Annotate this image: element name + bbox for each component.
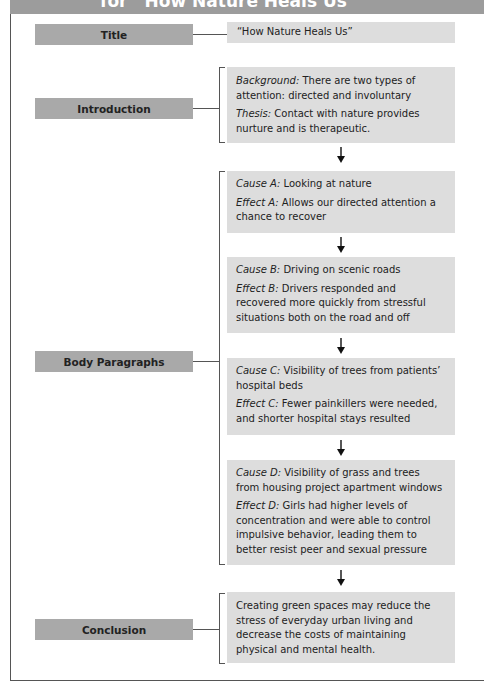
cause-a-text: Looking at nature	[280, 178, 371, 189]
label-body-paragraphs: Body Paragraphs	[35, 351, 193, 372]
cause-c: Cause C: Visibility of trees from patien…	[236, 364, 445, 393]
effect-c: Effect C: Fewer painkillers were needed,…	[236, 397, 445, 426]
box-introduction: Background: There are two types of atten…	[227, 67, 455, 143]
background-label: Background:	[236, 75, 299, 86]
box-cause-effect-a: Cause A: Looking at nature Effect A: All…	[227, 171, 455, 233]
bracket-conclusion	[219, 593, 225, 664]
effect-b-label: Effect B:	[236, 283, 279, 294]
down-arrow-icon	[336, 570, 346, 586]
label-conclusion: Conclusion	[35, 619, 193, 640]
effect-d-label: Effect D:	[236, 500, 279, 511]
title-text: “How Nature Heals Us”	[237, 25, 353, 40]
cause-c-label: Cause C:	[236, 365, 280, 376]
down-arrow-icon	[336, 237, 346, 253]
effect-d: Effect D: Girls had higher levels of con…	[236, 499, 445, 557]
cause-b: Cause B: Driving on scenic roads	[236, 263, 445, 278]
box-conclusion: Creating green spaces may reduce the str…	[227, 592, 455, 663]
bracket-body	[219, 171, 225, 565]
effect-c-label: Effect C:	[236, 398, 279, 409]
box-cause-effect-c: Cause C: Visibility of trees from patien…	[227, 358, 455, 435]
connector-body	[193, 361, 219, 362]
down-arrow-icon	[336, 338, 346, 354]
cause-d-label: Cause D:	[236, 467, 281, 478]
thesis-label: Thesis:	[236, 108, 271, 119]
effect-b: Effect B: Drivers responded and recovere…	[236, 282, 445, 326]
down-arrow-icon	[336, 147, 346, 163]
background-line: Background: There are two types of atten…	[236, 74, 445, 103]
header-title: for “How Nature Heals Us”	[100, 0, 358, 11]
cause-b-label: Cause B:	[236, 264, 280, 275]
connector-introduction	[193, 108, 219, 109]
connector-conclusion	[193, 629, 219, 630]
cause-b-text: Driving on scenic roads	[280, 264, 400, 275]
cause-a-label: Cause A:	[236, 178, 280, 189]
down-arrow-icon	[336, 440, 346, 456]
box-title: “How Nature Heals Us”	[227, 22, 455, 43]
label-title: Title	[35, 24, 193, 45]
header-bar: for “How Nature Heals Us”	[10, 0, 484, 14]
cause-a: Cause A: Looking at nature	[236, 177, 445, 192]
effect-a-label: Effect A:	[236, 197, 279, 208]
conclusion-text: Creating green spaces may reduce the str…	[236, 599, 445, 657]
bracket-introduction	[219, 67, 225, 143]
thesis-line: Thesis: Contact with nature provides nur…	[236, 107, 445, 136]
cause-d: Cause D: Visibility of grass and trees f…	[236, 466, 445, 495]
box-cause-effect-d: Cause D: Visibility of grass and trees f…	[227, 460, 455, 565]
box-cause-effect-b: Cause B: Driving on scenic roads Effect …	[227, 257, 455, 333]
connector-title	[193, 34, 227, 35]
effect-a: Effect A: Allows our directed attention …	[236, 196, 445, 225]
label-introduction: Introduction	[35, 98, 193, 119]
